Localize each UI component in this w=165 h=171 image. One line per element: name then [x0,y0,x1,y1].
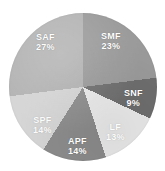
slice-name-saf: SAF [36,32,55,42]
slice-label-apf: APF 14% [68,136,87,156]
slice-pct-spf: 14% [33,125,52,135]
slice-name-spf: SPF [33,115,51,125]
slice-name-snf: SNF [124,88,143,98]
slice-pct-snf: 9% [124,98,143,108]
slice-name-smf: SMF [101,31,121,41]
slice-name-lf: LF [110,122,121,132]
slice-pct-lf: 13% [106,132,125,142]
slice-label-lf: LF 13% [106,122,125,142]
slice-pct-saf: 27% [36,42,55,52]
slice-label-smf: SMF 23% [101,31,121,51]
slice-name-apf: APF [68,136,87,146]
slice-label-spf: SPF 14% [33,115,52,135]
pie-chart: SMF 23% SNF 9% LF 13% APF 14% SPF 14% SA… [0,0,165,171]
slice-pct-apf: 14% [68,146,87,156]
slice-label-saf: SAF 27% [36,32,55,52]
slice-pct-smf: 23% [101,41,121,51]
slice-label-snf: SNF 9% [124,88,143,108]
